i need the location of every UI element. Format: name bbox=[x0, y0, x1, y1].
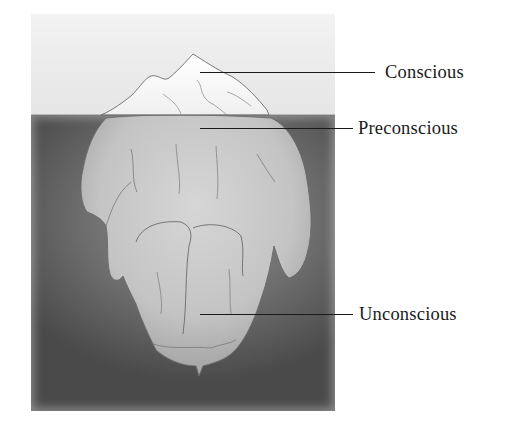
label-unconscious: Unconscious bbox=[359, 305, 457, 324]
submerged-ice bbox=[81, 115, 311, 376]
iceberg-drawing bbox=[31, 14, 335, 411]
leader-line-preconscious bbox=[200, 128, 353, 129]
leader-line-conscious bbox=[200, 72, 375, 73]
label-conscious: Conscious bbox=[385, 63, 464, 82]
iceberg-illustration bbox=[31, 14, 335, 411]
label-preconscious: Preconscious bbox=[358, 119, 458, 138]
iceberg-tip bbox=[101, 54, 269, 115]
leader-line-unconscious bbox=[200, 314, 353, 315]
